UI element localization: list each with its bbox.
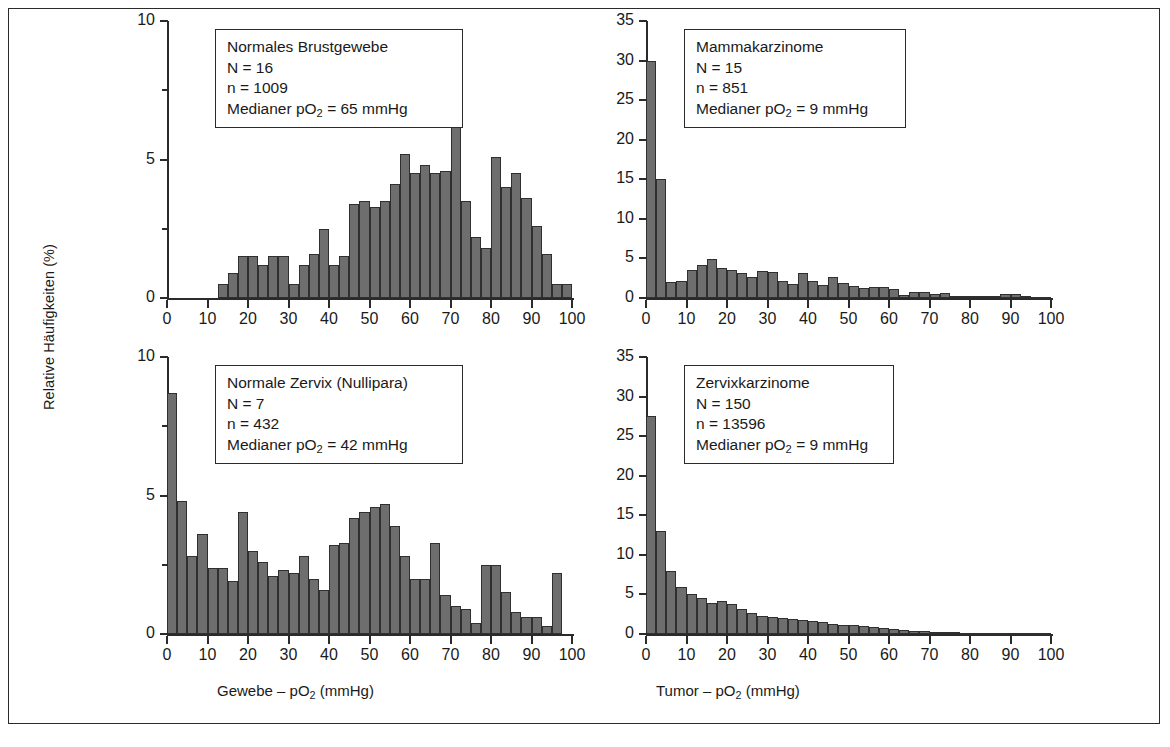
histogram-bar (491, 565, 501, 634)
histogram-bar (420, 579, 430, 634)
histogram-bar (960, 296, 970, 298)
histogram-bar (676, 587, 686, 634)
histogram-bar (849, 286, 859, 298)
histogram-bar (919, 292, 929, 298)
x-tick-label: 100 (547, 311, 597, 327)
y-tick (639, 435, 647, 437)
y-tick (639, 356, 647, 358)
x-tick (288, 300, 290, 308)
histogram-bar (511, 612, 521, 634)
histogram-bar (899, 630, 909, 634)
histogram-bar (349, 204, 359, 298)
y-tick (639, 396, 647, 398)
x-tick (1050, 300, 1052, 308)
y-tick (639, 297, 647, 299)
histogram-bar (717, 268, 727, 298)
x-tick (571, 636, 573, 644)
histogram-bar (930, 632, 940, 634)
histogram-bar (1041, 633, 1051, 635)
x-tick (531, 300, 533, 308)
histogram-bar (1031, 297, 1041, 299)
panel-median-po2: Medianer pO2 = 9 mmHg (696, 99, 894, 120)
x-tick (645, 636, 647, 644)
y-tick-label: 5 (105, 487, 155, 503)
x-tick (247, 300, 249, 308)
histogram-bar (208, 568, 218, 634)
histogram-bar (737, 273, 747, 298)
histogram-bar (218, 284, 228, 298)
x-tick (1010, 300, 1012, 308)
histogram-bar (697, 598, 707, 634)
histogram-bar (248, 256, 258, 298)
x-tick (767, 636, 769, 644)
histogram-bar (1000, 294, 1010, 298)
histogram-bar (552, 573, 562, 634)
histogram-bar (737, 609, 747, 634)
histogram-bar (818, 622, 828, 634)
y-tick-minor (162, 425, 168, 427)
panel-mammakarzinome: 051015202530350102030405060708090100Mamm… (646, 21, 1051, 298)
histogram-bar (359, 201, 369, 298)
x-tick (207, 636, 209, 644)
histogram-bar (889, 289, 899, 298)
histogram-bar (970, 296, 980, 298)
y-tick-minor (162, 89, 168, 91)
histogram-bar (451, 101, 461, 298)
histogram-bar (707, 603, 717, 634)
histogram-bar (656, 179, 666, 298)
panel-normale-zervix: 05100102030405060708090100Normale Zervix… (167, 357, 572, 634)
histogram-bar (390, 184, 400, 298)
y-tick (639, 257, 647, 259)
y-tick-label: 10 (105, 348, 155, 364)
panel-title: Normale Zervix (Nullipara) (227, 373, 451, 394)
y-tick (160, 159, 168, 161)
y-tick (160, 633, 168, 635)
y-tick-label: 30 (584, 52, 634, 68)
histogram-bar (778, 281, 788, 298)
histogram-bar (440, 171, 450, 298)
histogram-bar (359, 512, 369, 634)
histogram-bar (370, 207, 380, 298)
histogram-bar (400, 556, 410, 634)
subscript-2: 2 (310, 689, 316, 701)
histogram-bar (960, 633, 970, 635)
histogram-bar (1021, 296, 1031, 298)
histogram-bar (258, 265, 268, 298)
y-tick-label: 25 (584, 427, 634, 443)
histogram-bar (687, 270, 697, 298)
x-tick (888, 636, 890, 644)
histogram-bar (1011, 633, 1021, 635)
y-tick-label: 35 (584, 348, 634, 364)
histogram-bar (420, 165, 430, 298)
figure-frame: Relative Häufigkeiten (%) 05100102030405… (8, 8, 1160, 724)
histogram-bar (828, 624, 838, 634)
histogram-bar (869, 627, 879, 634)
histogram-bar (349, 518, 359, 634)
histogram-bar (798, 620, 808, 634)
x-tick (166, 300, 168, 308)
histogram-bar (410, 173, 420, 298)
histogram-bar (471, 623, 481, 634)
x-tick (490, 300, 492, 308)
histogram-bar (869, 287, 879, 298)
x-axis-line (167, 634, 574, 636)
x-tick (969, 300, 971, 308)
histogram-bar (990, 633, 1000, 635)
y-tick (639, 475, 647, 477)
y-tick-label: 0 (105, 289, 155, 305)
y-tick (639, 218, 647, 220)
histogram-bar (299, 556, 309, 634)
panel-info-box: MammakarzinomeN = 15n = 851Medianer pO2 … (684, 29, 906, 128)
y-tick-label: 35 (584, 12, 634, 28)
y-tick-label: 30 (584, 388, 634, 404)
x-tick (888, 300, 890, 308)
histogram-bar (177, 501, 187, 634)
histogram-bar (481, 248, 491, 298)
y-tick-label: 10 (584, 546, 634, 562)
histogram-bar (390, 526, 400, 634)
subscript-2: 2 (317, 443, 323, 455)
histogram-bar (542, 626, 552, 634)
histogram-bar (511, 173, 521, 298)
x-tick (450, 636, 452, 644)
histogram-bar (501, 187, 511, 298)
